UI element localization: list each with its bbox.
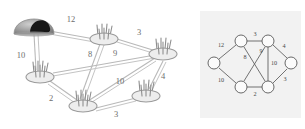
edge-weight-label: 12: [67, 14, 76, 24]
edge-weight-label: 2: [49, 93, 53, 103]
abstract-node-bottom[interactable]: [262, 81, 274, 93]
pictorial-graph-svg: 12 10 3 8 9 4 10 2 3: [0, 0, 196, 129]
abstract-node-right-top[interactable]: [262, 35, 274, 47]
abstract-edge-weight-label: 4: [282, 42, 285, 49]
abstract-edge-weight-label: 8: [243, 53, 246, 60]
cave-base-icon: [14, 32, 54, 37]
abstract-graph-card: 12 10 3 8 9 4 10 2 3: [200, 11, 301, 118]
pictorial-graph-panel: 12 10 3 8 9 4 10 2 3: [0, 0, 196, 129]
abstract-edge-weight-label: 12: [218, 41, 224, 48]
figure-root: 12 10 3 8 9 4 10 2 3: [0, 0, 305, 129]
abstract-node-right-bottom[interactable]: [285, 57, 297, 69]
node-top[interactable]: [90, 24, 118, 45]
edge-weight-label: 10: [116, 76, 125, 86]
edge-weight-label: 3: [137, 27, 141, 37]
edge-weight-label: 3: [114, 109, 118, 119]
edge-weight-label: 4: [161, 71, 166, 81]
abstract-edge-weight-label: 9: [259, 47, 262, 54]
edge-weight-label: 10: [17, 50, 26, 60]
abstract-graph-panel: 12 10 3 8 9 4 10 2 3: [196, 0, 305, 129]
abstract-node-cave[interactable]: [208, 57, 220, 69]
abstract-graph-svg: 12 10 3 8 9 4 10 2 3: [200, 11, 301, 118]
abstract-node-top[interactable]: [235, 35, 247, 47]
edge-weight-label: 8: [88, 49, 92, 59]
abstract-edge-weight-label: 10: [271, 59, 277, 66]
edge-left-to-righttop: [53, 55, 155, 76]
abstract-node-left[interactable]: [235, 81, 247, 93]
abstract-edge-weight-label: 3: [283, 75, 286, 82]
abstract-edge-weight-label: 3: [253, 30, 256, 37]
node-cave[interactable]: [14, 19, 54, 36]
node-right-top[interactable]: [149, 38, 177, 60]
abstract-edge-weight-label: 10: [218, 76, 224, 83]
edge-cave-to-left: [34, 34, 40, 70]
abstract-edge-weight-label: 2: [253, 90, 256, 97]
edge-weight-label: 9: [113, 48, 117, 58]
